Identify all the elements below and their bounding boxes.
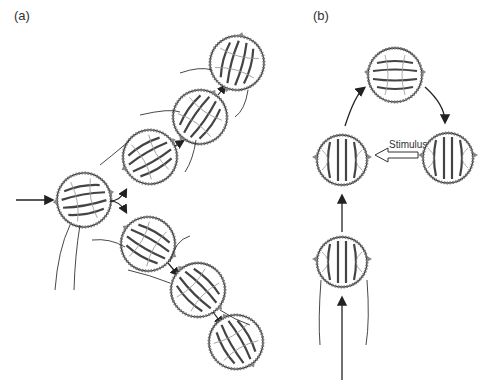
ctenophore-icon — [312, 135, 372, 185]
arrow-icon — [110, 201, 126, 212]
panel-b — [312, 48, 478, 380]
arrow-icon — [425, 87, 445, 122]
ctenophore-icon — [312, 237, 372, 287]
ctenophore-icon — [49, 168, 119, 232]
arrow-icon — [345, 88, 364, 126]
arrow-icon — [175, 141, 183, 146]
ctenophore-icon — [418, 133, 478, 183]
stimulus-arrow-icon — [375, 148, 418, 162]
panel-a — [16, 26, 275, 382]
ctenophore-icon — [203, 26, 271, 100]
diagram-canvas — [0, 0, 487, 390]
ctenophore-icon — [364, 48, 426, 102]
